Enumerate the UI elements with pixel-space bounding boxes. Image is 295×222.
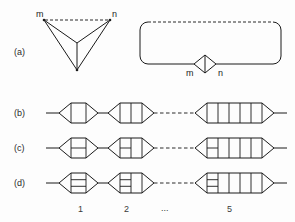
tetra-edge-right xyxy=(77,20,110,70)
tetra-vertex-n xyxy=(109,19,112,22)
tetrahedron-projection xyxy=(43,19,112,72)
vertex-label-n-left: n xyxy=(112,9,117,19)
cell-outline xyxy=(59,173,98,193)
row-label-d: (d) xyxy=(14,178,25,188)
figure-panel: (a) (b) (c) (d) m n m n 1 2 ... 5 xyxy=(0,0,295,222)
row-c-cell-1 xyxy=(59,138,98,158)
tetra-vertex-bottom xyxy=(76,69,79,72)
tetra-vertex-m xyxy=(43,19,46,22)
chain-row-d xyxy=(46,173,287,193)
loop-right-side xyxy=(273,22,281,64)
row-label-a: (a) xyxy=(14,47,25,57)
row-c-cell-5 xyxy=(195,138,274,158)
vertex-label-n-right: n xyxy=(218,68,223,78)
row-label-c: (c) xyxy=(14,143,25,153)
index-label-1: 1 xyxy=(78,204,83,214)
tetra-edge-left xyxy=(44,20,77,70)
vertex-label-m-right: m xyxy=(186,68,194,78)
row-b-cell-1 xyxy=(59,103,98,123)
row-b-cell-5 xyxy=(195,103,274,123)
tetra-spoke-left xyxy=(44,20,77,43)
row-d-cell-1 xyxy=(59,173,98,193)
vertex-label-m-left: m xyxy=(36,9,44,19)
row-label-b: (b) xyxy=(14,108,25,118)
row-d-cell-2 xyxy=(108,173,154,193)
loop-with-diamond xyxy=(140,22,281,73)
figure-canvas: (a) (b) (c) (d) m n m n 1 2 ... 5 xyxy=(0,0,295,222)
index-label-5: 5 xyxy=(227,204,232,214)
tetra-spoke-right xyxy=(77,20,110,43)
row-b-cell-2 xyxy=(108,103,154,123)
chain-row-c xyxy=(46,138,287,158)
loop-left-side xyxy=(140,22,148,64)
row-c-cell-2 xyxy=(108,138,154,158)
chain-row-b xyxy=(46,103,287,123)
index-label-2: 2 xyxy=(124,204,129,214)
row-d-cell-5 xyxy=(195,173,274,193)
index-label-ellipsis: ... xyxy=(161,203,169,213)
cell-outline xyxy=(59,103,98,123)
